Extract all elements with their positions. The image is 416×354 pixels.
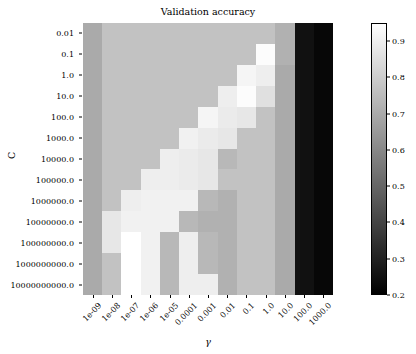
y-tick-label: 10000000000.0 [10, 280, 74, 289]
x-tick-mark [266, 295, 267, 298]
heatmap-cell [141, 232, 160, 253]
x-tick-label: 1.0 [261, 301, 276, 316]
heatmap-cell [179, 232, 198, 253]
heatmap-cell [256, 86, 275, 107]
heatmap-cell [314, 274, 333, 295]
heatmap-cell [314, 107, 333, 128]
heatmap-cell [218, 86, 237, 107]
x-tick-label: 1e-06 [138, 301, 160, 323]
heatmap-cell [160, 253, 179, 274]
heatmap-cell [218, 128, 237, 149]
x-tick-label: 0.01 [219, 301, 238, 320]
heatmap-cell [314, 128, 333, 149]
heatmap-cell [179, 86, 198, 107]
y-tick-mark [79, 179, 82, 180]
heatmap-cell [179, 169, 198, 190]
heatmap-cell [295, 211, 314, 232]
heatmap-cell [314, 211, 333, 232]
heatmap-plot-area [83, 23, 333, 295]
heatmap-cell [275, 44, 294, 65]
heatmap-cell [83, 107, 102, 128]
heatmap-cell [141, 211, 160, 232]
colorbar-tick-label: 0.7 [392, 109, 405, 118]
y-tick-label: 100000000.0 [21, 238, 74, 247]
heatmap-cell [237, 107, 256, 128]
heatmap-cell [121, 211, 140, 232]
heatmap-cell [314, 149, 333, 170]
x-tick-mark [323, 295, 324, 298]
heatmap-cell [121, 86, 140, 107]
heatmap-cell [198, 274, 217, 295]
colorbar-tick-label: 0.2 [392, 291, 405, 300]
heatmap-cell [102, 211, 121, 232]
heatmap-cell [160, 23, 179, 44]
heatmap-cell [160, 65, 179, 86]
heatmap-cell [218, 44, 237, 65]
heatmap-cell [102, 23, 121, 44]
y-tick-mark [79, 221, 82, 222]
heatmap-cell [218, 169, 237, 190]
y-tick-mark [79, 200, 82, 201]
heatmap-cell [237, 169, 256, 190]
y-axis-tick-labels: 0.010.11.010.0100.01000.010000.0100000.0… [0, 23, 79, 295]
heatmap-grid [83, 23, 333, 295]
heatmap-cell [179, 44, 198, 65]
heatmap-cell [237, 274, 256, 295]
heatmap-cell [102, 44, 121, 65]
heatmap-cell [256, 253, 275, 274]
heatmap-cell [179, 274, 198, 295]
heatmap-cell [237, 232, 256, 253]
colorbar-tick-label: 0.9 [392, 37, 405, 46]
heatmap-cell [314, 169, 333, 190]
colorbar-tick-label: 0.6 [392, 145, 405, 154]
heatmap-cell [198, 128, 217, 149]
heatmap-cell [218, 211, 237, 232]
heatmap-cell [102, 190, 121, 211]
heatmap-cell [198, 169, 217, 190]
x-tick-label: 1e-09 [81, 301, 103, 323]
heatmap-cell [121, 232, 140, 253]
heatmap-cell [314, 190, 333, 211]
heatmap-cell [160, 86, 179, 107]
heatmap-cell [218, 65, 237, 86]
y-tick-mark [79, 33, 82, 34]
heatmap-cell [83, 149, 102, 170]
heatmap-cell [141, 169, 160, 190]
heatmap-cell [160, 274, 179, 295]
heatmap-cell [256, 149, 275, 170]
heatmap-cell [160, 211, 179, 232]
heatmap-cell [314, 65, 333, 86]
page-title: Validation accuracy [83, 6, 333, 18]
y-tick-mark [79, 96, 82, 97]
heatmap-cell [160, 190, 179, 211]
heatmap-cell [295, 128, 314, 149]
heatmap-cell [160, 149, 179, 170]
heatmap-cell [275, 107, 294, 128]
heatmap-cell [83, 169, 102, 190]
y-tick-label: 10000000.0 [26, 217, 74, 226]
x-tick-label: 1e-08 [100, 301, 122, 323]
colorbar-tick-mark [387, 149, 390, 150]
heatmap-cell [256, 232, 275, 253]
x-tick-mark [304, 295, 305, 298]
heatmap-cell [141, 253, 160, 274]
heatmap-cell [121, 23, 140, 44]
colorbar-tick-labels: 0.90.80.70.60.50.40.30.2 [371, 23, 416, 295]
y-tick-label: 0.1 [61, 50, 74, 59]
heatmap-cell [141, 274, 160, 295]
colorbar-tick-label: 0.4 [392, 218, 405, 227]
heatmap-cell [102, 107, 121, 128]
heatmap-cell [83, 274, 102, 295]
colorbar-tick-mark [387, 113, 390, 114]
heatmap-cell [141, 86, 160, 107]
heatmap-cell [237, 149, 256, 170]
heatmap-cell [121, 253, 140, 274]
x-tick-label: 0.001 [196, 301, 219, 324]
x-tick-mark [246, 295, 247, 298]
heatmap-cell [237, 190, 256, 211]
heatmap-cell [237, 23, 256, 44]
heatmap-cell [179, 149, 198, 170]
heatmap-cell [237, 128, 256, 149]
heatmap-cell [121, 65, 140, 86]
heatmap-cell [256, 44, 275, 65]
